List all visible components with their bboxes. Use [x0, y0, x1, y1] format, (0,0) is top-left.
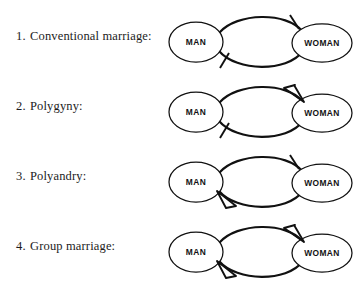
- row-label-text: Polyandry:: [30, 169, 86, 183]
- diagram-row-conventional-marriage: 1.Conventional marriage: MAN WOMAN: [0, 6, 359, 76]
- entity-label-man: MAN: [186, 107, 206, 117]
- entity-label-woman: WOMAN: [304, 108, 340, 118]
- relationship-arc-bottom: [219, 51, 302, 67]
- er-diagram-polygyny: MAN WOMAN: [162, 76, 358, 146]
- relationship-arc-top: [219, 157, 302, 173]
- row-label-text: Polygyny:: [30, 99, 83, 113]
- entity-label-man: MAN: [186, 247, 206, 257]
- entity-label-woman: WOMAN: [304, 38, 340, 48]
- row-label-polygyny: 2.Polygyny:: [16, 99, 166, 114]
- row-number: 1.: [16, 29, 30, 44]
- relationship-arc-bottom: [219, 121, 302, 137]
- entity-label-woman: WOMAN: [304, 178, 340, 188]
- diagram-row-polygyny: 2.Polygyny: MAN WOMAN: [0, 76, 359, 146]
- relationship-arc-top: [219, 87, 302, 103]
- relationship-arc-top: [219, 227, 302, 243]
- relationship-arc-bottom: [219, 191, 302, 207]
- entity-label-woman: WOMAN: [304, 248, 340, 258]
- er-diagram-group-marriage: MAN WOMAN: [162, 216, 358, 286]
- crowsfoot-many-marker-man-bottom: [217, 191, 236, 208]
- marriage-types-figure: 1.Conventional marriage: MAN WOMAN 2.Pol…: [0, 0, 359, 294]
- row-number: 4.: [16, 239, 30, 254]
- row-label-group-marriage: 4.Group marriage:: [16, 239, 166, 254]
- row-label-text: Group marriage:: [30, 239, 115, 253]
- row-label-conventional-marriage: 1.Conventional marriage:: [16, 29, 166, 44]
- diagram-row-polyandry: 3.Polyandry: MAN WOMAN: [0, 146, 359, 216]
- row-number: 2.: [16, 99, 30, 114]
- relationship-arc-top: [219, 17, 302, 33]
- row-label-polyandry: 3.Polyandry:: [16, 169, 166, 184]
- er-diagram-polyandry: MAN WOMAN: [162, 146, 358, 216]
- er-diagram-conventional-marriage: MAN WOMAN: [162, 6, 358, 76]
- row-label-text: Conventional marriage:: [30, 29, 152, 43]
- relationship-arc-bottom: [219, 261, 302, 277]
- entity-label-man: MAN: [186, 37, 206, 47]
- crowsfoot-many-marker-man-bottom: [217, 261, 236, 278]
- entity-label-man: MAN: [186, 177, 206, 187]
- diagram-row-group-marriage: 4.Group marriage: MAN WOMAN: [0, 216, 359, 286]
- row-number: 3.: [16, 169, 30, 184]
